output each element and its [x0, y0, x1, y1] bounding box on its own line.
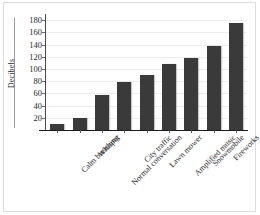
- y-axis-tick-label: 40: [34, 101, 43, 110]
- y-axis-tick-mark: [42, 93, 45, 94]
- plot-area: [45, 14, 247, 130]
- y-axis-tick-label: 160: [29, 28, 42, 37]
- bar-series: [46, 14, 247, 130]
- bar: [162, 64, 176, 130]
- bar: [140, 75, 154, 130]
- bar: [229, 23, 243, 130]
- y-axis-tick-mark: [42, 81, 45, 82]
- y-axis-tick-label: 20: [34, 113, 43, 122]
- y-axis-tick-label: 120: [29, 52, 42, 61]
- y-axis-tick-label: 80: [34, 77, 43, 86]
- y-axis-tick-mark: [42, 57, 45, 58]
- x-axis-line: [39, 130, 248, 132]
- bar: [95, 95, 109, 130]
- y-axis-tick-mark: [42, 69, 45, 70]
- bar: [184, 58, 198, 130]
- y-axis-title-text: Decibels: [8, 58, 17, 88]
- x-axis-category-label: Whisper: [95, 133, 121, 159]
- y-axis-tick-label: 100: [29, 64, 42, 73]
- y-axis-tick-mark: [42, 20, 45, 21]
- y-axis-tick-label: 180: [29, 16, 42, 25]
- y-axis-tick-label: 140: [29, 40, 42, 49]
- y-axis-tick-mark: [42, 32, 45, 33]
- bar-chart-figure: Decibels 20406080100120140160180 Calm br…: [0, 0, 260, 215]
- bar: [117, 82, 131, 130]
- y-axis-tick-mark: [42, 106, 45, 107]
- y-axis-tick-mark: [42, 118, 45, 119]
- bar: [73, 118, 87, 130]
- y-axis-title: Decibels: [2, 14, 22, 132]
- y-axis-tick-label: 60: [34, 89, 43, 98]
- bar: [207, 46, 221, 130]
- x-axis-category-labels: Calm breathingWhisperNormal conversation…: [45, 133, 257, 213]
- y-axis-tick-labels: 20406080100120140160180: [20, 14, 42, 130]
- y-axis-tick-mark: [42, 45, 45, 46]
